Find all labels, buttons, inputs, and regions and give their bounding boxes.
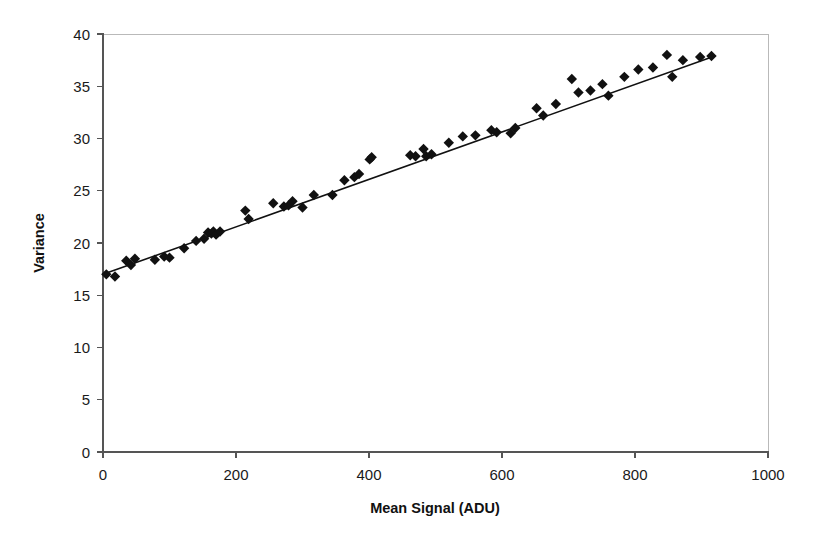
- y-axis-title: Variance: [31, 213, 47, 273]
- data-point-marker: [470, 130, 480, 140]
- y-tick-label: 35: [73, 78, 90, 95]
- x-tick-label: 600: [489, 466, 514, 483]
- chart-container: 0510152025303540 02004006008001000 Mean …: [0, 0, 820, 541]
- x-tick-label: 0: [99, 466, 107, 483]
- data-point-marker: [706, 51, 716, 61]
- y-tick-label: 30: [73, 130, 90, 147]
- y-tick-label: 10: [73, 339, 90, 356]
- data-point-marker: [110, 271, 120, 281]
- data-point-marker: [567, 74, 577, 84]
- data-point-marker: [191, 236, 201, 246]
- y-tick-label: 20: [73, 235, 90, 252]
- x-tick-label: 400: [356, 466, 381, 483]
- x-axis-ticks: 02004006008001000: [99, 451, 785, 483]
- y-tick-label: 0: [82, 444, 90, 461]
- x-tick-label: 1000: [751, 466, 784, 483]
- data-point-marker: [150, 255, 160, 265]
- data-point-marker: [551, 99, 561, 109]
- y-tick-label: 15: [73, 287, 90, 304]
- data-point-marker: [458, 131, 468, 141]
- data-point-marker: [633, 64, 643, 74]
- data-point-marker: [531, 103, 541, 113]
- x-tick-label: 200: [223, 466, 248, 483]
- data-point-marker: [662, 50, 672, 60]
- data-point-marker: [444, 137, 454, 147]
- scatter-plot: 0510152025303540 02004006008001000 Mean …: [0, 0, 820, 541]
- data-point-marker: [678, 55, 688, 65]
- data-point-marker: [268, 198, 278, 208]
- y-tick-label: 5: [82, 391, 90, 408]
- data-point-marker: [339, 175, 349, 185]
- y-tick-label: 40: [73, 26, 90, 43]
- y-axis-ticks: 0510152025303540: [73, 26, 104, 461]
- data-point-marker: [597, 79, 607, 89]
- x-tick-label: 800: [622, 466, 647, 483]
- data-point-marker: [648, 62, 658, 72]
- data-point-marker: [585, 85, 595, 95]
- x-axis-title: Mean Signal (ADU): [370, 500, 500, 516]
- data-point-marker: [619, 72, 629, 82]
- y-tick-label: 25: [73, 182, 90, 199]
- data-point-marker: [573, 87, 583, 97]
